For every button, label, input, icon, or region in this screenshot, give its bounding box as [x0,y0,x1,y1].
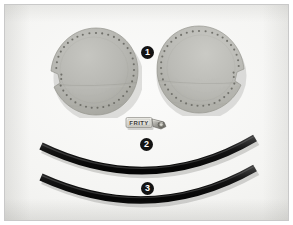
photo-backdrop: FRITY 1 2 3 [5,5,288,220]
callout-badge-3: 3 [141,182,154,195]
tag-brand-text: FRITY [129,120,148,126]
photo-frame: FRITY 1 2 3 [4,4,289,221]
callout-badge-2: 2 [140,138,153,151]
zipper-slider [152,119,166,129]
zipper-pull-tag: FRITY [123,113,171,135]
product-parts-photo: FRITY 1 2 3 [0,0,293,225]
callout-badge-1: 1 [141,46,154,59]
